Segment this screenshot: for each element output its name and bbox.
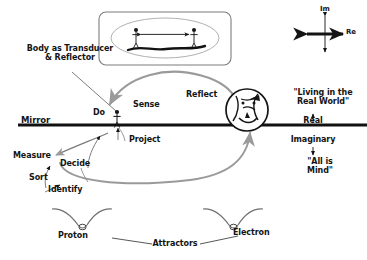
label-attractors: Attractors: [153, 240, 198, 249]
label-project: Project: [129, 136, 160, 145]
two-observers-panel: [99, 12, 231, 65]
label-living-in-the-real-world: "Living in the Real World": [294, 89, 353, 106]
ground-curve: [128, 46, 205, 50]
label-decide: Decide: [60, 160, 90, 169]
diagram-canvas: Body as Transducer & Reflector Do Sense …: [0, 0, 367, 260]
label-all-is-mind: "All is Mind": [307, 158, 333, 175]
label-sense: Sense: [133, 101, 160, 110]
stick-figure-left: [132, 28, 139, 49]
complex-plane-axes-icon: [307, 16, 343, 52]
label-mirror: Mirror: [21, 116, 50, 125]
label-body-as-transducer: Body as Transducer & Reflector: [27, 45, 113, 62]
identify-leader: [81, 168, 88, 182]
project-leader: [119, 128, 125, 141]
label-real: Real: [303, 117, 322, 126]
label-imaginary: Imaginary: [291, 136, 336, 145]
label-do: Do: [93, 109, 105, 118]
leader-body-transducer: [72, 72, 116, 111]
diagram-vector-layer: [0, 0, 367, 260]
electron-attractor-well-icon: [203, 209, 263, 230]
label-proton: Proton: [58, 232, 88, 241]
label-reflect: Reflect: [186, 91, 217, 100]
reflected-self-circle-icon: [226, 89, 268, 131]
attractors-leader-left: [112, 238, 152, 244]
label-identify: Identify: [48, 186, 82, 195]
label-im-axis: Im: [320, 6, 330, 14]
label-measure: Measure: [13, 152, 51, 161]
label-re-axis: Re: [346, 29, 356, 37]
panel-ellipse: [111, 18, 219, 58]
stick-figure-right: [190, 28, 197, 49]
label-electron: Electron: [233, 229, 270, 238]
panel-frame: [99, 12, 231, 65]
proton-attractor-well-icon: [52, 209, 112, 230]
label-sort: Sort: [29, 174, 48, 183]
